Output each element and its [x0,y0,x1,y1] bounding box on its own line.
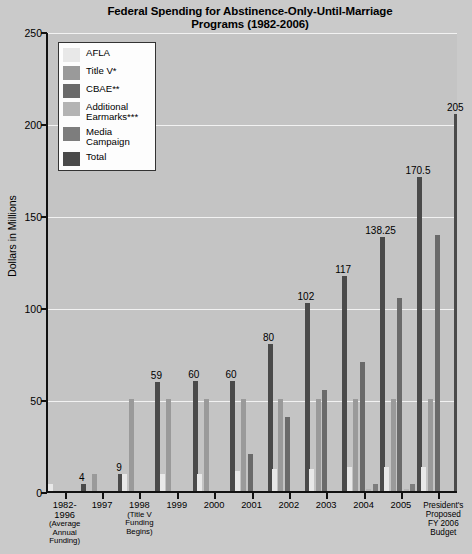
legend-item: Media Campaign [63,126,151,148]
bar [235,471,240,491]
x-tick-mark [364,493,366,499]
legend-label: Title V* [86,65,117,76]
y-tick-mark [41,216,47,218]
legend-swatch [63,152,80,166]
x-tick-mark [65,493,67,499]
bar [347,467,352,491]
legend-item: Additional Earmarks*** [63,101,151,123]
x-tick-mark [214,493,216,499]
y-tick-label: 250 [2,28,42,38]
x-category-label: President'sProposedFY 2006Budget [422,501,465,537]
x-tick-mark [401,493,403,499]
bar [373,484,378,491]
bar [272,469,277,491]
legend-item: AFLA [63,47,151,62]
bar [81,484,86,491]
bar [397,298,402,491]
bar-value-label: 60 [212,370,250,380]
gridline [48,33,457,34]
x-category-label: 2005 [379,501,422,511]
y-axis-label: Dollars in Millions [6,156,18,316]
y-tick-mark [41,400,47,402]
bar [428,399,433,491]
bar [160,474,165,491]
legend-label: Additional Earmarks*** [86,101,151,123]
y-tick-mark [41,308,47,310]
bar [410,484,415,491]
bar-value-label: 205 [436,103,472,113]
bar-value-label: 138.25 [362,226,400,236]
bar [391,399,396,491]
bar [366,489,371,491]
bar [309,469,314,491]
bar [278,399,283,491]
legend-item: Title V* [63,65,151,80]
y-tick-label: 50 [2,396,42,406]
bar [122,474,127,491]
legend-label: Total [86,151,106,162]
gridline [48,309,457,310]
bar [166,399,171,491]
bar [380,237,385,491]
x-tick-mark [102,493,104,499]
bar [360,362,365,491]
bar [241,399,246,491]
x-tick-mark [139,493,141,499]
bar [384,467,389,491]
bar [129,399,134,491]
bar [48,484,53,491]
gridline [48,401,457,402]
bar [404,489,409,491]
bar-value-label: 102 [287,292,325,302]
chart-title-line2: Programs (1982-2006) [191,18,309,30]
bar [435,235,440,491]
bar-value-label: 4 [63,473,101,483]
bar [417,177,422,491]
legend-item: CBAE** [63,83,151,98]
legend-label: CBAE** [86,83,120,94]
bar [204,399,209,491]
legend-item: Total [63,151,151,166]
bar-value-label: 117 [324,265,362,275]
bar-value-label: 60 [175,370,213,380]
x-tick-mark [252,493,254,499]
bar-value-label: 170.5 [399,166,437,176]
bar-value-label: 80 [250,333,288,343]
bar-value-label: 59 [137,371,175,381]
y-tick-label: 200 [2,120,42,130]
bar [316,399,321,491]
legend-swatch [63,48,80,62]
legend-swatch [63,66,80,80]
y-tick-label: 100 [2,304,42,314]
legend-swatch [63,102,80,116]
bar [285,417,290,491]
y-tick-mark [41,124,47,126]
chart-title-line1: Federal Spending for Abstinence-Only-Unt… [107,5,392,17]
legend-swatch [63,127,80,141]
bar [197,474,202,491]
gridline [48,217,457,218]
bar [421,467,426,491]
x-tick-mark [438,493,440,499]
y-tick-mark [41,492,47,494]
x-tick-mark [326,493,328,499]
x-tick-mark [289,493,291,499]
bar [305,303,310,491]
legend-swatch [63,84,80,98]
bar [454,114,457,491]
chart-title: Federal Spending for Abstinence-Only-Unt… [40,5,460,31]
bar [248,454,253,491]
bar [353,399,358,491]
bar [322,390,327,491]
legend-label: Media Campaign [86,126,151,148]
bar-value-label: 9 [100,463,138,473]
x-tick-mark [177,493,179,499]
y-tick-mark [41,32,47,34]
bar [342,276,347,491]
chart-container: Federal Spending for Abstinence-Only-Unt… [0,0,472,554]
chart-legend: AFLATitle V*CBAE**Additional Earmarks***… [58,42,156,171]
y-tick-label: 150 [2,212,42,222]
legend-label: AFLA [86,47,110,58]
y-tick-label: 0 [2,488,42,498]
